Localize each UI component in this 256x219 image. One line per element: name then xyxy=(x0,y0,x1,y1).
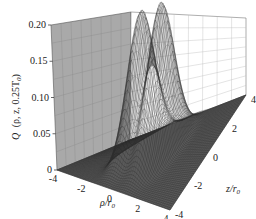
surface-plot: 00.050.100.150.20 -4-2024 -4-2024 Q (ρ, … xyxy=(0,0,256,219)
rho-axis-label: ρ/r0 xyxy=(99,197,115,210)
svg-text:4: 4 xyxy=(164,213,169,219)
svg-text:-4: -4 xyxy=(49,173,57,184)
svg-text:0.05: 0.05 xyxy=(33,128,51,139)
svg-text:2: 2 xyxy=(232,123,237,134)
depth-axis-label: z/r0 xyxy=(225,183,241,196)
svg-text:2: 2 xyxy=(135,203,140,214)
svg-text:-2: -2 xyxy=(194,180,202,191)
svg-text:0.10: 0.10 xyxy=(32,92,50,103)
svg-text:0: 0 xyxy=(213,152,218,163)
svg-text:-2: -2 xyxy=(77,183,85,194)
svg-text:0.15: 0.15 xyxy=(30,55,48,66)
z-axis-label: Q (ρ, z, 0.25T0) xyxy=(10,74,23,140)
svg-text:-4: -4 xyxy=(175,209,183,219)
svg-text:0.20: 0.20 xyxy=(29,19,47,30)
svg-text:4: 4 xyxy=(251,94,256,105)
